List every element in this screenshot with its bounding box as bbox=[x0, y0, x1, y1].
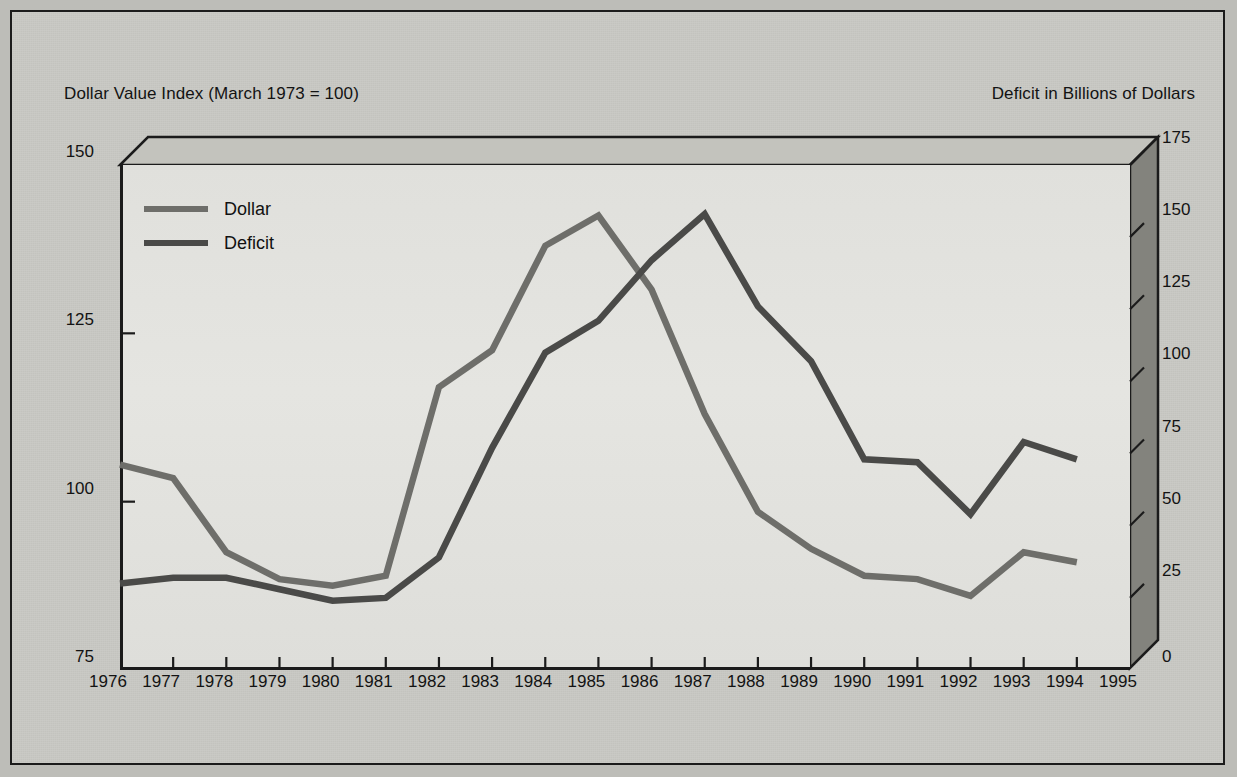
y-axis-tick-right bbox=[1130, 440, 1144, 454]
y-tick-label-right: 25 bbox=[1162, 561, 1222, 581]
y-axis-tick-right bbox=[1130, 367, 1144, 381]
x-tick-label: 1992 bbox=[935, 672, 983, 692]
legend-item-deficit: Deficit bbox=[144, 226, 274, 260]
slab-top-face bbox=[120, 137, 1158, 165]
x-tick-label: 1994 bbox=[1041, 672, 1089, 692]
series-line-dollar bbox=[120, 216, 1077, 596]
y-axis-tick-right bbox=[1130, 223, 1144, 237]
y-tick-label-right: 100 bbox=[1162, 344, 1222, 364]
y-tick-label-right: 150 bbox=[1162, 200, 1222, 220]
x-tick-label: 1990 bbox=[828, 672, 876, 692]
figure-frame: Dollar Value Index (March 1973 = 100) De… bbox=[10, 10, 1225, 765]
x-tick-label: 1993 bbox=[988, 672, 1036, 692]
y-tick-label-left: 150 bbox=[36, 142, 94, 162]
legend-swatch-deficit bbox=[144, 240, 208, 246]
x-tick-label: 1980 bbox=[297, 672, 345, 692]
x-tick-label: 1985 bbox=[562, 672, 610, 692]
left-axis-title: Dollar Value Index (March 1973 = 100) bbox=[64, 84, 359, 104]
y-tick-label-right: 0 bbox=[1162, 647, 1222, 667]
legend-swatch-dollar bbox=[144, 206, 208, 212]
legend-label-dollar: Dollar bbox=[224, 199, 271, 220]
y-tick-label-right: 50 bbox=[1162, 489, 1222, 509]
y-tick-label-right: 75 bbox=[1162, 417, 1222, 437]
chart-canvas bbox=[120, 165, 1160, 685]
chart-legend: Dollar Deficit bbox=[144, 192, 274, 260]
x-tick-label: 1989 bbox=[775, 672, 823, 692]
y-tick-label-left: 125 bbox=[36, 310, 94, 330]
y-tick-label-left: 75 bbox=[36, 647, 94, 667]
x-tick-label: 1995 bbox=[1094, 672, 1142, 692]
y-tick-label-left: 100 bbox=[36, 479, 94, 499]
y-axis-tick-right bbox=[1130, 584, 1144, 598]
x-tick-label: 1982 bbox=[403, 672, 451, 692]
x-tick-label: 1986 bbox=[616, 672, 664, 692]
legend-label-deficit: Deficit bbox=[224, 233, 274, 254]
y-axis-tick-right bbox=[1130, 512, 1144, 526]
right-axis-title: Deficit in Billions of Dollars bbox=[992, 84, 1195, 104]
x-tick-label: 1976 bbox=[84, 672, 132, 692]
y-tick-label-right: 175 bbox=[1162, 128, 1222, 148]
figure-page: Dollar Value Index (March 1973 = 100) De… bbox=[0, 0, 1237, 777]
x-tick-label: 1987 bbox=[669, 672, 717, 692]
x-tick-label: 1984 bbox=[509, 672, 557, 692]
y-tick-label-right: 125 bbox=[1162, 272, 1222, 292]
x-tick-label: 1978 bbox=[190, 672, 238, 692]
x-tick-label: 1983 bbox=[456, 672, 504, 692]
x-tick-label: 1988 bbox=[722, 672, 770, 692]
x-tick-label: 1979 bbox=[243, 672, 291, 692]
x-tick-label: 1977 bbox=[137, 672, 185, 692]
x-tick-label: 1981 bbox=[350, 672, 398, 692]
y-axis-tick-right bbox=[1130, 295, 1144, 309]
legend-item-dollar: Dollar bbox=[144, 192, 274, 226]
x-tick-label: 1991 bbox=[881, 672, 929, 692]
series-line-deficit bbox=[120, 214, 1077, 601]
